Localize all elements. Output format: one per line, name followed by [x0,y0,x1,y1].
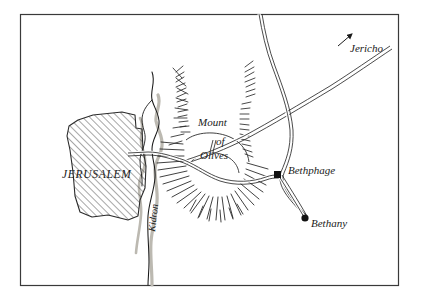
label-bethany: Bethany [311,217,347,229]
label-mount: Mount [197,116,228,128]
label-jerusalem: JERUSALEM [62,168,132,180]
settlement-marker-bethany[interactable] [301,214,308,221]
label-olives: Olives [200,149,228,161]
jerusalem-area [67,112,146,220]
label-bethphage: Bethphage [288,164,335,176]
settlement-marker-bethphage[interactable] [274,171,281,178]
map-canvas: JERUSALEM Mount of Olives Bethphage Beth… [0,0,421,299]
map-figure: JERUSALEM Mount of Olives Bethphage Beth… [0,0,421,299]
label-jericho: Jericho [350,42,383,54]
